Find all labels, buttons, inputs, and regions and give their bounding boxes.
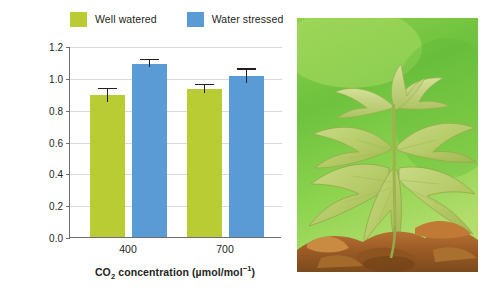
errorbar-cap-top-well-watered-400 (98, 88, 117, 89)
ytick-mark-0.8 (66, 111, 70, 112)
errorbar-line-water-stressed-400 (149, 60, 150, 66)
ytick-label-1.0: 1.0 (49, 73, 63, 84)
ytick-mark-1.2 (66, 47, 70, 48)
errorbar-line-well-watered-400 (107, 89, 108, 102)
ytick-mark-1.0 (66, 79, 70, 80)
x-axis-title-post: ) (251, 266, 255, 278)
bar-water-stressed-700[interactable] (229, 76, 264, 237)
ytick-label-1.2: 1.2 (49, 42, 63, 53)
plot-area: 1.2 1.0 0.8 0.6 0.4 0.2 0.0 400 (69, 47, 281, 238)
legend-label-water-stressed: Water stressed (212, 13, 284, 25)
legend-item-well-watered: Well watered (70, 12, 157, 27)
ytick-label-0.6: 0.6 (49, 137, 63, 148)
xtick-label-400: 400 (119, 243, 137, 255)
ytick-mark-0.2 (66, 206, 70, 207)
legend-swatch-well-watered (70, 12, 87, 27)
ytick-mark-0.4 (66, 174, 70, 175)
errorbar-cap-top-water-stressed-700 (237, 68, 256, 69)
ytick-label-0.4: 0.4 (49, 169, 63, 180)
ytick-mark-0.6 (66, 143, 70, 144)
x-axis-title: CO2 concentration (µmol/mol−1) (69, 264, 281, 281)
ytick-label-0.8: 0.8 (49, 105, 63, 116)
bar-water-stressed-400[interactable] (132, 64, 167, 238)
errorbar-cap-top-water-stressed-400 (140, 59, 159, 60)
errorbar-cap-top-well-watered-700 (195, 84, 214, 85)
errorbar-line-water-stressed-700 (246, 70, 247, 83)
ytick-label-0.2: 0.2 (49, 201, 63, 212)
legend-label-well-watered: Well watered (95, 13, 157, 25)
xtick-label-700: 700 (216, 243, 234, 255)
ytick-mark-0.0 (66, 238, 70, 239)
chart-legend: Well watered Water stressed (70, 10, 283, 28)
bar-well-watered-400[interactable] (90, 95, 125, 237)
figure-root: Well watered Water stressed Root-to-shoo… (0, 0, 495, 292)
gridline-1.2 (70, 47, 282, 48)
legend-swatch-water-stressed (187, 12, 204, 27)
x-axis-title-pre: CO (95, 266, 111, 278)
bar-well-watered-700[interactable] (187, 89, 222, 237)
ytick-label-0.0: 0.0 (49, 233, 63, 244)
oak-seedling-photo (297, 18, 478, 272)
x-axis-title-mid: concentration (µmol/mol (115, 266, 242, 278)
errorbar-line-well-watered-700 (204, 85, 205, 93)
legend-item-water-stressed: Water stressed (187, 12, 284, 27)
